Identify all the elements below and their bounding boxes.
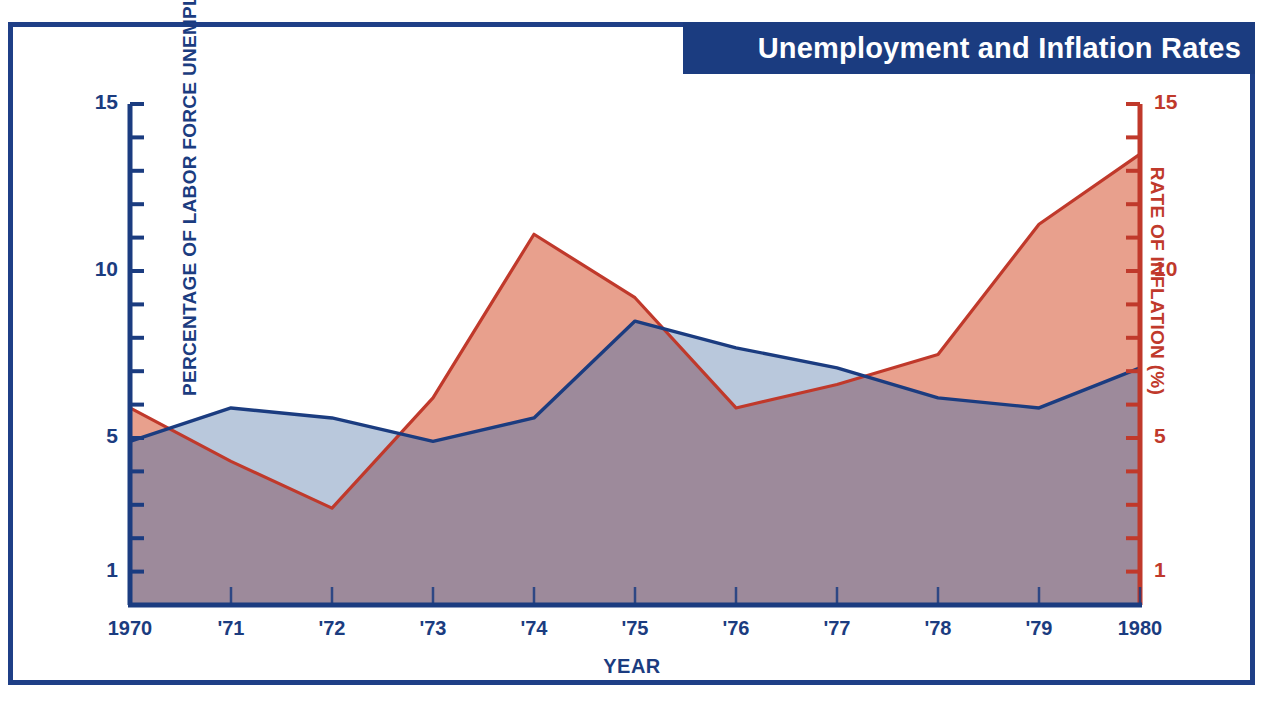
y-tick-label-left-15: 15 [70, 90, 118, 114]
x-tick-label-1: '71 [217, 617, 244, 640]
y-tick-label-left-10: 10 [70, 257, 118, 281]
x-tick-label-10: 1980 [1118, 617, 1163, 640]
x-tick-label-4: '74 [520, 617, 547, 640]
x-axis-label: YEAR [0, 655, 1264, 678]
chart-figure: Unemployment and Inflation Rates PERCENT… [0, 0, 1264, 703]
x-tick-label-2: '72 [318, 617, 345, 640]
y-tick-label-right-5: 5 [1154, 424, 1202, 448]
x-tick-label-7: '77 [823, 617, 850, 640]
plot-area [118, 95, 1148, 610]
title-banner: Unemployment and Inflation Rates [683, 22, 1255, 74]
y-tick-label-right-1: 1 [1154, 558, 1202, 582]
x-tick-label-8: '78 [924, 617, 951, 640]
page-title: Unemployment and Inflation Rates [758, 32, 1241, 65]
chart-svg [118, 95, 1148, 610]
area-fills [130, 154, 1140, 605]
y-axis-right-label: RATE OF INFLATION (%) [1146, 131, 1168, 431]
x-tick-label-0: 1970 [108, 617, 153, 640]
y-tick-label-left-1: 1 [70, 558, 118, 582]
y-tick-label-right-10: 10 [1154, 257, 1202, 281]
x-tick-label-6: '76 [722, 617, 749, 640]
y-tick-label-right-15: 15 [1154, 90, 1202, 114]
y-tick-label-left-5: 5 [70, 424, 118, 448]
x-tick-label-5: '75 [621, 617, 648, 640]
x-tick-label-9: '79 [1025, 617, 1052, 640]
x-tick-label-3: '73 [419, 617, 446, 640]
